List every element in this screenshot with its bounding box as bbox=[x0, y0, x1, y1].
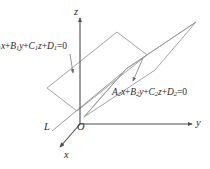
plane-2-edge-upper bbox=[84, 22, 196, 117]
plane-1-coef-d: D bbox=[47, 41, 54, 51]
plane-1-equals: =0 bbox=[57, 41, 67, 51]
intersection-line-label: L bbox=[44, 122, 50, 133]
axis-z-label: z bbox=[74, 7, 78, 18]
axis-x-label: x bbox=[64, 150, 69, 161]
intersection-line-L bbox=[52, 73, 122, 131]
plane-2-equation-label: A2x+B2y+C2z+D2=0 bbox=[112, 88, 187, 98]
plane-1-leader-arrow bbox=[70, 54, 73, 73]
plane-2-quad bbox=[84, 22, 196, 117]
plane-2-equals: =0 bbox=[177, 87, 187, 97]
plane-1-equation-label: A1x+B1y+C1z+D1=0 bbox=[0, 42, 67, 52]
plane-2-coef-d: D bbox=[167, 87, 174, 97]
figure-canvas bbox=[0, 0, 210, 169]
origin-label: O bbox=[77, 122, 85, 133]
plane-2-outline bbox=[84, 22, 196, 117]
axis-y-label: y bbox=[196, 118, 201, 129]
geometry-figure: A1x+B1y+C1z+D1=0 A2x+B2y+C2z+D2=0 z y x … bbox=[0, 0, 210, 169]
